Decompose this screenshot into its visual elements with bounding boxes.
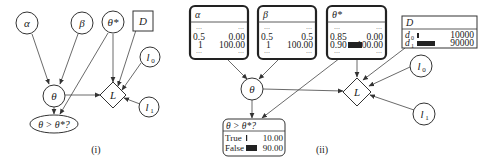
beta-cpt-box: β ··· ··· 0.5 0.5 1 100.00 ··· ··· — [258, 6, 316, 59]
svg-text:0: 0 — [151, 57, 155, 65]
edge-thetastarbox-querybox — [262, 58, 340, 118]
svg-text:θ*: θ* — [108, 16, 119, 28]
svg-text:1: 1 — [198, 40, 203, 50]
D-cpt-box: D d 0 10000 d 1 90000 — [402, 16, 477, 49]
svg-text:···: ··· — [376, 50, 382, 56]
svg-text:100.00: 100.00 — [357, 40, 383, 50]
svg-text:θ: θ — [249, 83, 255, 95]
svg-text:l: l — [417, 60, 420, 72]
svg-text:α: α — [195, 9, 201, 20]
node-l1: l 1 — [139, 97, 159, 117]
svg-text:True: True — [225, 133, 242, 143]
node-L-ii: L — [343, 78, 371, 106]
svg-text:···: ··· — [238, 50, 244, 56]
svg-text:L: L — [353, 86, 360, 98]
svg-text:···: ··· — [264, 50, 270, 56]
node-l0-ii: l 0 — [410, 55, 432, 77]
probability-bar — [246, 145, 257, 151]
probability-bar — [417, 41, 435, 46]
svg-text:θ*: θ* — [332, 9, 342, 20]
node-theta: θ — [43, 85, 65, 107]
edge-D-L — [118, 30, 136, 86]
edge-theta-L — [263, 89, 343, 91]
svg-text:90000: 90000 — [450, 38, 474, 48]
diagram-canvas: α β θ* D θ L l 0 l 1 — [0, 0, 481, 165]
panel-i: α β θ* D θ L l 0 l 1 — [16, 11, 160, 156]
svg-text:0: 0 — [411, 35, 414, 41]
svg-text:0.90: 0.90 — [330, 40, 347, 50]
svg-text:0: 0 — [422, 66, 426, 74]
svg-text:1: 1 — [266, 40, 271, 50]
query-cpt-box: θ > θ*? True 10.00 False 90.00 — [223, 119, 285, 156]
panel-ii: α ··· ··· 0.5 0.00 1 100.00 ··· ··· β ··… — [190, 6, 477, 156]
edge-l0-L — [369, 67, 410, 86]
svg-text:β: β — [78, 17, 85, 29]
probability-bar — [417, 33, 419, 38]
svg-text:10.00: 10.00 — [263, 133, 284, 143]
alpha-cpt-box: α ··· ··· 0.5 0.00 1 100.00 ··· ··· — [190, 6, 248, 59]
svg-text:···: ··· — [196, 50, 202, 56]
svg-text:θ: θ — [51, 90, 57, 102]
edge-l0-L — [122, 63, 141, 90]
edge-alphabox-theta — [226, 58, 247, 79]
svg-text:False: False — [225, 143, 244, 153]
svg-text:100.00: 100.00 — [219, 40, 245, 50]
svg-text:···: ··· — [334, 50, 340, 56]
node-l0: l 0 — [140, 47, 160, 67]
svg-text:d: d — [405, 38, 410, 48]
node-theta-ii: θ — [241, 78, 263, 100]
node-l1-ii: l 1 — [413, 103, 435, 125]
svg-text:l: l — [420, 108, 423, 120]
svg-text:L: L — [109, 89, 116, 101]
panel-ii-caption: (ii) — [316, 144, 328, 156]
svg-text:1: 1 — [411, 43, 414, 49]
node-theta-star: θ* — [102, 11, 124, 33]
edge-alpha-theta — [32, 34, 49, 84]
svg-text:θ > θ*?: θ > θ*? — [38, 119, 70, 130]
node-beta: β — [71, 12, 93, 34]
node-alpha: α — [16, 12, 38, 34]
edge-betabox-theta — [259, 58, 280, 79]
svg-text:1: 1 — [150, 107, 154, 115]
svg-text:D: D — [138, 15, 147, 27]
node-query: θ > θ*? — [30, 115, 78, 133]
svg-text:···: ··· — [306, 50, 312, 56]
node-D: D — [133, 11, 153, 31]
edge-thetastar-query — [60, 33, 108, 114]
svg-text:α: α — [24, 17, 30, 29]
svg-text:D: D — [405, 17, 414, 28]
panel-i-caption: (i) — [91, 144, 100, 156]
edge-l1-L — [124, 98, 140, 104]
svg-text:θ > θ*?: θ > θ*? — [226, 121, 256, 131]
theta-star-cpt-box: θ* ··· ··· 0.85 0.00 0.90 100.00 ··· ··· — [327, 6, 386, 59]
svg-text:l: l — [145, 101, 148, 113]
svg-text:100.00: 100.00 — [287, 40, 313, 50]
edge-beta-theta — [60, 34, 78, 84]
svg-text:1: 1 — [425, 114, 429, 122]
svg-text:l: l — [146, 51, 149, 63]
node-L: L — [100, 82, 126, 108]
svg-text:β: β — [262, 9, 268, 20]
edge-l1-L — [370, 95, 414, 110]
probability-bar — [246, 135, 247, 141]
svg-text:90.00: 90.00 — [263, 143, 284, 153]
